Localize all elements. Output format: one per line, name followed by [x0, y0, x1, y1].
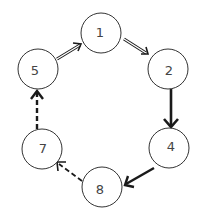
node-7: 7 — [22, 129, 62, 169]
node-2: 2 — [148, 49, 188, 89]
node-4: 4 — [149, 128, 189, 168]
node-5: 5 — [18, 49, 58, 89]
edge-1-to-2 — [124, 39, 148, 54]
node-label: 7 — [39, 141, 47, 156]
node-label: 5 — [31, 63, 39, 78]
node-label: 8 — [96, 182, 104, 197]
edge-7-to-5 — [31, 91, 43, 129]
node-1: 1 — [81, 13, 121, 53]
edge-2-to-4 — [164, 89, 178, 127]
node-8: 8 — [82, 167, 122, 207]
edge-4-to-8 — [125, 168, 154, 187]
node-label: 4 — [167, 139, 175, 154]
edge-5-to-1 — [57, 43, 81, 59]
cycle-diagram: 1 2 4 8 7 5 — [0, 0, 206, 221]
node-label: 1 — [96, 25, 104, 40]
node-label: 2 — [165, 63, 173, 78]
edge-8-to-7 — [57, 162, 82, 181]
